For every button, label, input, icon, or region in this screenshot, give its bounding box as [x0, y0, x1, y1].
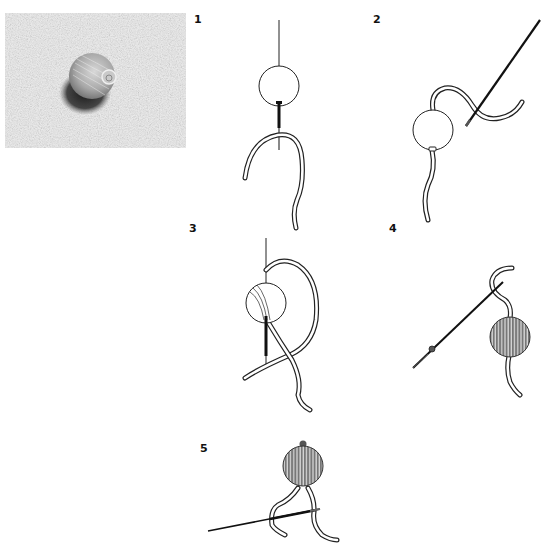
- step-5-illustration: [208, 441, 337, 541]
- thread-icon: [272, 488, 337, 540]
- bead-icon: [413, 110, 453, 150]
- step-2-illustration: [413, 20, 540, 220]
- step-3-illustration: [245, 238, 317, 410]
- needle-icon: [466, 20, 540, 126]
- wrapped-bead-icon: [490, 317, 530, 357]
- steps-diagram: [0, 0, 543, 547]
- thread-icon: [245, 261, 317, 410]
- step-4-illustration: [413, 268, 530, 395]
- step-1-illustration: [245, 20, 302, 228]
- bead-icon: [259, 66, 299, 106]
- thread-icon: [245, 135, 302, 228]
- thread-icon: [425, 88, 522, 220]
- wrapped-bead-icon: [283, 446, 323, 486]
- knot-icon: [429, 346, 435, 352]
